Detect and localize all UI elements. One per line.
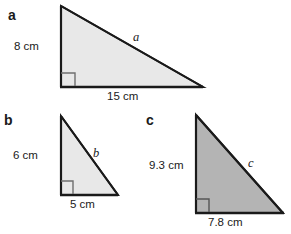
triangle-a-hypotenuse-label: a [133, 31, 139, 44]
triangles-figure: a b c 8 cm 15 cm a 6 cm 5 cm b 9.3 cm 7.… [0, 0, 291, 234]
triangle-a-horizontal-dimension: 15 cm [107, 91, 138, 103]
triangle-c-vertical-dimension: 9.3 cm [149, 160, 184, 172]
triangle-c-horizontal-dimension: 7.8 cm [208, 217, 243, 229]
triangle-a [60, 6, 203, 87]
triangle-c-hypotenuse-label: c [248, 157, 254, 170]
triangle-a-vertical-dimension: 8 cm [14, 41, 39, 53]
part-label-b: b [4, 113, 13, 127]
triangle-b-hypotenuse-label: b [93, 147, 99, 160]
triangle-b-vertical-dimension: 6 cm [13, 150, 38, 162]
triangle-c [195, 115, 284, 213]
part-label-c: c [146, 113, 154, 127]
triangle-b-horizontal-dimension: 5 cm [70, 199, 95, 211]
part-label-a: a [8, 8, 16, 22]
triangle-b [60, 116, 118, 195]
